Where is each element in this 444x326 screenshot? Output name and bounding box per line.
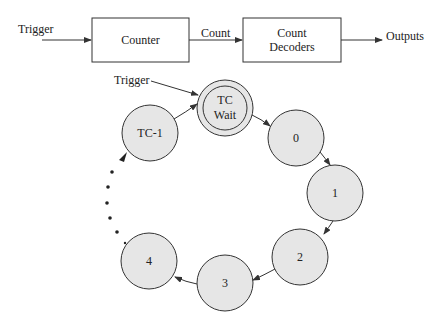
transition-2-to-3 xyxy=(253,269,275,280)
outputs-label: Outputs xyxy=(386,29,424,43)
state-4: 4 xyxy=(121,233,177,289)
state-1: 1 xyxy=(307,165,363,221)
state-3-label: 3 xyxy=(222,276,228,290)
state-2-label: 2 xyxy=(297,250,303,264)
state-2: 2 xyxy=(272,229,328,285)
state-4-label: 4 xyxy=(146,254,152,268)
transition-1-to-2 xyxy=(324,221,333,234)
state-diagram: Trigger TC Wait 0 1 2 3 4 xyxy=(105,73,363,311)
transition-0-to-1 xyxy=(320,152,330,165)
transition-tcwait-to-0 xyxy=(252,115,270,126)
state-trigger-arrow xyxy=(151,81,198,95)
ellipsis-arrowhead-icon xyxy=(119,152,127,162)
transition-tc1-to-tcwait xyxy=(174,104,197,119)
state-1-label: 1 xyxy=(332,186,338,200)
ellipsis-dots xyxy=(105,170,126,244)
count-link-label: Count xyxy=(201,26,231,40)
state-tc-wait: TC Wait xyxy=(197,80,253,136)
state-3: 3 xyxy=(197,255,253,311)
trigger-input-label: Trigger xyxy=(18,22,54,36)
state-trigger-label: Trigger xyxy=(114,73,150,87)
counter-state-diagram: Trigger Counter Count Count Decoders Out… xyxy=(0,0,444,326)
decoder-label-line2: Decoders xyxy=(269,40,315,54)
decoder-label-line1: Count xyxy=(277,26,307,40)
state-tc-1: TC-1 xyxy=(122,105,178,161)
state-0: 0 xyxy=(268,110,324,166)
state-tc-1-label: TC-1 xyxy=(137,126,162,140)
state-tc-wait-line1: TC xyxy=(217,93,232,107)
transition-3-to-4 xyxy=(175,277,197,284)
counter-label: Counter xyxy=(121,33,160,47)
block-diagram: Trigger Counter Count Count Decoders Out… xyxy=(18,18,424,62)
state-tc-wait-line2: Wait xyxy=(214,108,237,122)
state-0-label: 0 xyxy=(293,131,299,145)
